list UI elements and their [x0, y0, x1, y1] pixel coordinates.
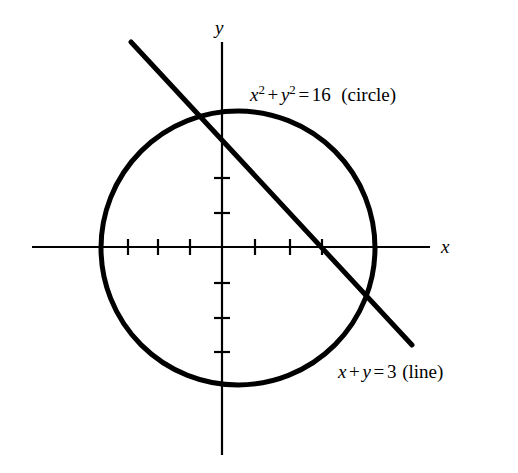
circle-label-exp-x: 2 — [258, 82, 264, 97]
x-axis-label: x — [441, 237, 449, 256]
circle-label-plus: + — [265, 84, 281, 105]
circle-label-equals: = — [296, 84, 312, 105]
circle-equation-label: x2+y2=16(circle) — [250, 84, 396, 104]
line-label-var-y: y — [362, 361, 370, 382]
line-label-plus: + — [346, 361, 362, 382]
y-axis-label: y — [215, 18, 223, 37]
line-label-name: (line) — [402, 361, 443, 382]
circle-label-exp-y: 2 — [289, 82, 295, 97]
circle-label-name: (circle) — [341, 84, 396, 105]
line-label-value: 3 — [387, 361, 397, 382]
line-label-equals: = — [371, 361, 387, 382]
line-equation-label: x+y=3(line) — [338, 362, 443, 381]
math-figure: y x x2+y2=16(circle) x+y=3(line) — [0, 0, 518, 473]
circle-label-value: 16 — [312, 84, 331, 105]
